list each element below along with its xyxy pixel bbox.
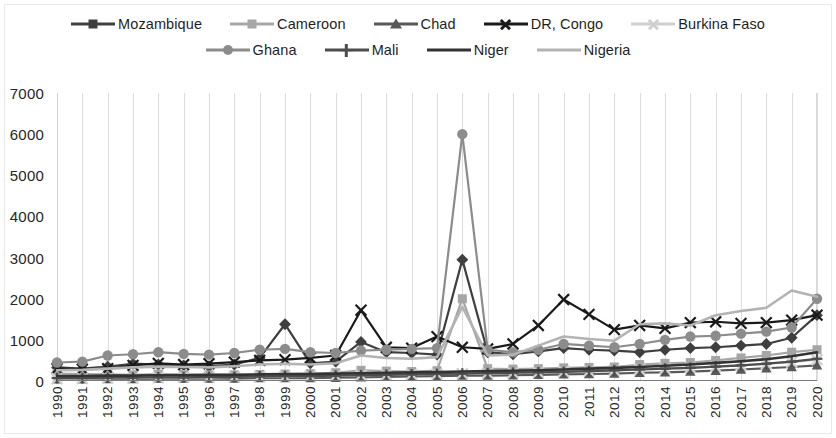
data-point-marker bbox=[229, 348, 239, 358]
x-axis-tick-label: 2004 bbox=[404, 386, 419, 418]
x-axis-tick-label: 2005 bbox=[430, 386, 445, 418]
y-axis-tick-label: 5000 bbox=[0, 167, 44, 184]
series-ghana bbox=[52, 129, 822, 368]
y-axis-tick-label: 3000 bbox=[0, 249, 44, 266]
legend-item-burkina-faso[interactable]: Burkina Faso bbox=[631, 14, 765, 34]
data-point-marker bbox=[609, 342, 619, 352]
data-point-marker bbox=[228, 359, 240, 371]
data-point-marker bbox=[381, 345, 391, 355]
x-axis-tick-label: 2007 bbox=[480, 386, 495, 418]
y-axis-tick-label: 4000 bbox=[0, 208, 44, 225]
legend-row: GhanaMaliNigerNigeria bbox=[192, 40, 645, 60]
x-axis-line bbox=[57, 380, 817, 381]
legend-item-niger[interactable]: Niger bbox=[427, 40, 509, 60]
data-point-marker bbox=[685, 331, 695, 341]
legend-label: Cameroon bbox=[277, 15, 346, 33]
x-axis-tick-label: 2013 bbox=[632, 386, 647, 418]
y-axis-tick-label: 2000 bbox=[0, 290, 44, 307]
series-layer bbox=[57, 93, 817, 381]
data-point-marker bbox=[634, 339, 644, 349]
y-axis-tick-label: 0 bbox=[0, 373, 44, 390]
series-nigeria bbox=[57, 290, 817, 370]
data-point-marker bbox=[558, 294, 569, 305]
data-point-marker bbox=[736, 328, 746, 338]
x-axis-tick-label: 2011 bbox=[582, 386, 597, 417]
data-point-marker bbox=[684, 342, 696, 354]
legend-item-nigeria[interactable]: Nigeria bbox=[537, 40, 631, 60]
x-axis-tick-label: 2018 bbox=[759, 386, 774, 418]
legend-item-mozambique[interactable]: Mozambique bbox=[71, 14, 202, 34]
data-point-marker bbox=[584, 340, 594, 350]
y-axis: 01000200030004000500060007000 bbox=[0, 93, 50, 381]
y-axis-tick-label: 6000 bbox=[0, 126, 44, 143]
legend-item-dr-congo[interactable]: DR, Congo bbox=[484, 14, 604, 34]
legend-item-mali[interactable]: Mali bbox=[325, 40, 399, 60]
x-axis-tick-label: 1990 bbox=[50, 386, 65, 418]
x-axis-tick-label: 2006 bbox=[455, 386, 470, 418]
legend-key-icon bbox=[325, 41, 369, 59]
series-line bbox=[57, 134, 817, 362]
legend-key-icon bbox=[427, 41, 471, 59]
data-point-marker bbox=[735, 340, 747, 352]
data-point-marker bbox=[178, 349, 188, 359]
data-point-marker bbox=[760, 338, 772, 350]
data-point-marker bbox=[153, 347, 163, 357]
plot-area bbox=[57, 93, 817, 381]
x-axis-tick-label: 2001 bbox=[328, 386, 343, 418]
x-axis-tick-label: 2016 bbox=[708, 386, 723, 418]
x-axis-tick-label: 1995 bbox=[176, 386, 191, 418]
legend-label: Burkina Faso bbox=[678, 15, 765, 33]
data-point-marker bbox=[305, 347, 315, 357]
data-point-marker bbox=[280, 344, 290, 354]
data-point-marker bbox=[761, 326, 771, 336]
legend-label: DR, Congo bbox=[531, 15, 604, 33]
data-point-marker bbox=[710, 341, 722, 353]
x-axis-tick-label: 2017 bbox=[734, 386, 749, 418]
legend-key-icon bbox=[537, 41, 581, 59]
x-axis-tick-label: 1991 bbox=[75, 386, 90, 418]
legend-item-cameroon[interactable]: Cameroon bbox=[230, 14, 346, 34]
x-axis: 1990199119921993199419951996199719981999… bbox=[57, 384, 817, 438]
data-point-marker bbox=[533, 320, 544, 331]
data-point-marker bbox=[52, 357, 62, 367]
y-axis-tick-label: 7000 bbox=[0, 85, 44, 102]
data-point-marker bbox=[77, 356, 87, 366]
legend-label: Nigeria bbox=[584, 41, 631, 59]
x-axis-tick-label: 2014 bbox=[658, 386, 673, 418]
data-point-marker bbox=[406, 344, 416, 354]
data-point-marker bbox=[710, 331, 720, 341]
data-point-marker bbox=[458, 294, 467, 303]
x-axis-tick-label: 1994 bbox=[151, 386, 166, 418]
data-point-marker bbox=[102, 350, 112, 360]
legend-item-ghana[interactable]: Ghana bbox=[206, 40, 297, 60]
x-axis-tick-label: 2003 bbox=[379, 386, 394, 418]
x-axis-tick-label: 1996 bbox=[202, 386, 217, 418]
chart-page: MozambiqueCameroonChadDR, CongoBurkina F… bbox=[0, 0, 836, 438]
data-point-marker bbox=[456, 254, 468, 266]
series-line bbox=[57, 290, 817, 370]
data-point-marker bbox=[204, 349, 214, 359]
legend-item-chad[interactable]: Chad bbox=[374, 14, 456, 34]
x-axis-tick-label: 1993 bbox=[126, 386, 141, 418]
x-axis-tick-label: 1997 bbox=[227, 386, 242, 418]
data-point-marker bbox=[659, 344, 671, 356]
legend-key-icon bbox=[71, 15, 115, 33]
gridline bbox=[817, 93, 818, 381]
chart-legend: MozambiqueCameroonChadDR, CongoBurkina F… bbox=[0, 14, 836, 60]
legend-label: Chad bbox=[421, 15, 456, 33]
data-point-marker bbox=[584, 309, 595, 320]
x-axis-tick-label: 1992 bbox=[100, 386, 115, 418]
data-point-marker bbox=[786, 322, 796, 332]
legend-label: Ghana bbox=[253, 41, 297, 59]
x-axis-tick-label: 2020 bbox=[810, 386, 825, 418]
data-point-marker bbox=[356, 305, 367, 316]
data-point-marker bbox=[254, 345, 264, 355]
x-axis-tick-label: 2015 bbox=[683, 386, 698, 418]
legend-label: Mozambique bbox=[118, 15, 202, 33]
x-axis-tick-label: 2008 bbox=[506, 386, 521, 418]
legend-key-icon bbox=[484, 15, 528, 33]
x-axis-tick-label: 2002 bbox=[354, 386, 369, 418]
data-point-marker bbox=[660, 335, 670, 345]
legend-key-icon bbox=[206, 41, 250, 59]
data-point-marker bbox=[558, 339, 568, 349]
